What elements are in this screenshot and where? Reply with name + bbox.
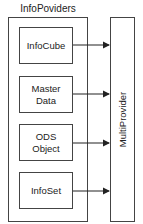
connector-arrows — [0, 0, 143, 224]
